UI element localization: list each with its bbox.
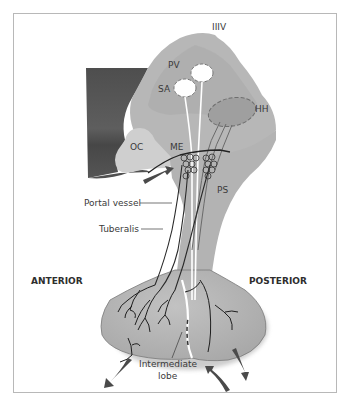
label-iiiv: IIIV <box>212 22 227 32</box>
label-sa: SA <box>158 84 171 94</box>
label-portal-vessel: Portal vessel <box>84 198 141 208</box>
label-posterior: POSTERIOR <box>249 276 307 286</box>
label-anterior: ANTERIOR <box>31 276 83 286</box>
label-me: ME <box>170 142 184 152</box>
label-ps: PS <box>217 185 228 195</box>
label-intermediate: Intermediate <box>139 359 198 369</box>
pv-nucleus <box>191 64 213 82</box>
pituitary-diagram: IIIV PV SA HH OC ME PS Portal vessel Tub… <box>0 0 349 407</box>
label-hh: HH <box>255 104 269 114</box>
label-oc: OC <box>130 142 143 152</box>
label-lobe: lobe <box>158 371 178 381</box>
pituitary-gland <box>101 270 268 370</box>
label-tuberalis: Tuberalis <box>98 224 139 234</box>
sa-nucleus <box>174 79 196 97</box>
label-pv: PV <box>168 60 180 70</box>
